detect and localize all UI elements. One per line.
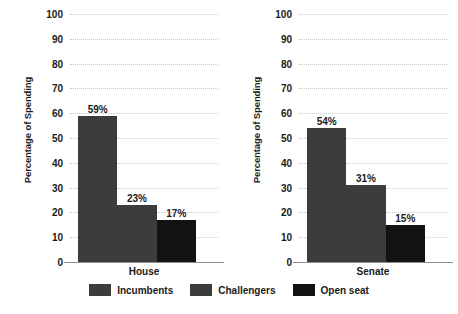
y-tick-label-70: 70 — [281, 83, 292, 94]
y-tick-label-30: 30 — [281, 182, 292, 193]
y-tick-label-0: 0 — [286, 257, 292, 268]
bar-value-label-house-challengers: 23% — [127, 193, 147, 204]
legend-label-open-seat: Open seat — [321, 285, 369, 296]
legend-label-incumbents: Incumbents — [117, 285, 173, 296]
bar-value-label-house-open-seat: 17% — [166, 208, 186, 219]
bar-senate-incumbents[interactable]: 54% — [307, 128, 346, 262]
chart-panel-senate: Percentage of Spending 100 90 80 70 60 5… — [229, 0, 458, 282]
y-axis-title-house: Percentage of Spending — [22, 55, 33, 205]
y-tick-label-50: 50 — [281, 133, 292, 144]
y-tick-label-60: 60 — [281, 108, 292, 119]
plot-area-house: 100 90 80 70 60 50 40 30 20 10 0 59% 23% — [70, 14, 218, 262]
x-axis-label-house: House — [70, 266, 218, 277]
bar-slot-senate-challengers: 31% — [346, 14, 385, 262]
bar-value-label-senate-open-seat: 15% — [395, 213, 415, 224]
chart-panel-house: Percentage of Spending 100 90 80 70 60 5… — [0, 0, 229, 282]
y-tick-label-0: 0 — [57, 257, 63, 268]
y-tick-label-100: 100 — [275, 9, 292, 20]
legend-swatch-icon-challengers — [190, 284, 212, 296]
plot-area-senate: 100 90 80 70 60 50 40 30 20 10 0 54% 31% — [299, 14, 447, 262]
y-tick-label-40: 40 — [52, 157, 63, 168]
y-tick-label-10: 10 — [52, 232, 63, 243]
x-axis-label-senate: Senate — [299, 266, 447, 277]
y-tick-label-20: 20 — [52, 207, 63, 218]
axis-baseline — [293, 262, 453, 263]
bar-senate-open-seat[interactable]: 15% — [386, 225, 425, 262]
y-tick-label-90: 90 — [52, 33, 63, 44]
bar-value-label-house-incumbents: 59% — [88, 104, 108, 115]
bar-value-label-senate-incumbents: 54% — [317, 116, 337, 127]
bar-group-house: 59% 23% 17% — [78, 14, 196, 262]
legend-item-open-seat[interactable]: Open seat — [293, 284, 369, 296]
y-tick-label-50: 50 — [52, 133, 63, 144]
y-axis-title-senate: Percentage of Spending — [251, 55, 262, 205]
y-tick-label-80: 80 — [281, 58, 292, 69]
bar-slot-senate-open-seat: 15% — [386, 14, 425, 262]
y-tick-label-80: 80 — [52, 58, 63, 69]
bar-slot-senate-incumbents: 54% — [307, 14, 346, 262]
y-tick-label-100: 100 — [46, 9, 63, 20]
bar-slot-house-challengers: 23% — [117, 14, 156, 262]
bar-group-senate: 54% 31% 15% — [307, 14, 425, 262]
y-tick-label-40: 40 — [281, 157, 292, 168]
bar-senate-challengers[interactable]: 31% — [346, 185, 385, 262]
y-tick-label-30: 30 — [52, 182, 63, 193]
chart-figure: Percentage of Spending 100 90 80 70 60 5… — [0, 0, 458, 314]
y-tick-label-20: 20 — [281, 207, 292, 218]
bar-slot-house-incumbents: 59% — [78, 14, 117, 262]
bar-house-incumbents[interactable]: 59% — [78, 116, 117, 262]
axis-baseline — [64, 262, 224, 263]
legend-item-challengers[interactable]: Challengers — [190, 284, 275, 296]
bar-slot-house-open-seat: 17% — [157, 14, 196, 262]
y-tick-label-60: 60 — [52, 108, 63, 119]
legend-item-incumbents[interactable]: Incumbents — [89, 284, 173, 296]
legend-swatch-icon-open-seat — [293, 284, 315, 296]
legend-label-challengers: Challengers — [218, 285, 275, 296]
y-tick-label-70: 70 — [52, 83, 63, 94]
legend-swatch-icon-incumbents — [89, 284, 111, 296]
y-tick-label-90: 90 — [281, 33, 292, 44]
bar-house-challengers[interactable]: 23% — [117, 205, 156, 262]
chart-legend: Incumbents Challengers Open seat — [0, 284, 458, 296]
y-tick-label-10: 10 — [281, 232, 292, 243]
bar-value-label-senate-challengers: 31% — [356, 173, 376, 184]
bar-house-open-seat[interactable]: 17% — [157, 220, 196, 262]
